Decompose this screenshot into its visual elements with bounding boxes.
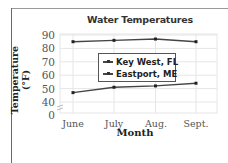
- legend: Key West, FL Eastport, ME: [98, 53, 176, 82]
- legend-item-key-west: Key West, FL: [103, 57, 178, 67]
- legend-label: Key West, FL: [116, 57, 178, 67]
- x-axis-label: Month: [95, 127, 175, 138]
- line-marker-icon: [103, 61, 113, 63]
- x-tick-june: June: [53, 118, 93, 129]
- x-tick-sept: Sept.: [176, 118, 216, 129]
- line-marker-icon: [103, 73, 113, 75]
- legend-label: Eastport, ME: [116, 69, 177, 79]
- legend-item-eastport: Eastport, ME: [103, 69, 177, 79]
